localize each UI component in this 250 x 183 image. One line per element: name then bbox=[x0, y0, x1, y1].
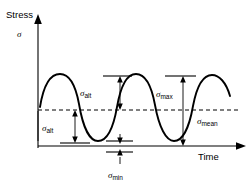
sigma-mean-label: σmean bbox=[197, 116, 218, 127]
sigma-min-annotation: σmin bbox=[106, 134, 133, 181]
y-axis-label: Stress bbox=[6, 9, 33, 20]
x-axis-label: Time bbox=[198, 151, 219, 162]
stress-waveform-curve bbox=[40, 74, 230, 141]
stress-cycle-diagram: σalt σmax σmean σalt bbox=[0, 0, 250, 183]
sigma-alt-upper-annotation: σalt bbox=[80, 76, 132, 110]
sigma-alt-upper-label: σalt bbox=[80, 88, 92, 99]
figure-canvas: σalt σmax σmean σalt bbox=[0, 0, 250, 183]
sigma-max-annotation: σmax bbox=[156, 76, 196, 146]
sigma-alt-lower-label: σalt bbox=[42, 123, 54, 134]
sigma-max-label: σmax bbox=[156, 89, 173, 100]
sigma-alt-lower-annotation: σalt bbox=[38, 110, 90, 143]
sigma-mean-annotation: σmean bbox=[197, 116, 218, 127]
y-axis-arrow-icon bbox=[34, 14, 42, 24]
x-axis-arrow-icon bbox=[236, 142, 246, 150]
sigma-min-label: σmin bbox=[108, 170, 123, 181]
y-axis-symbol: σ bbox=[17, 29, 22, 39]
